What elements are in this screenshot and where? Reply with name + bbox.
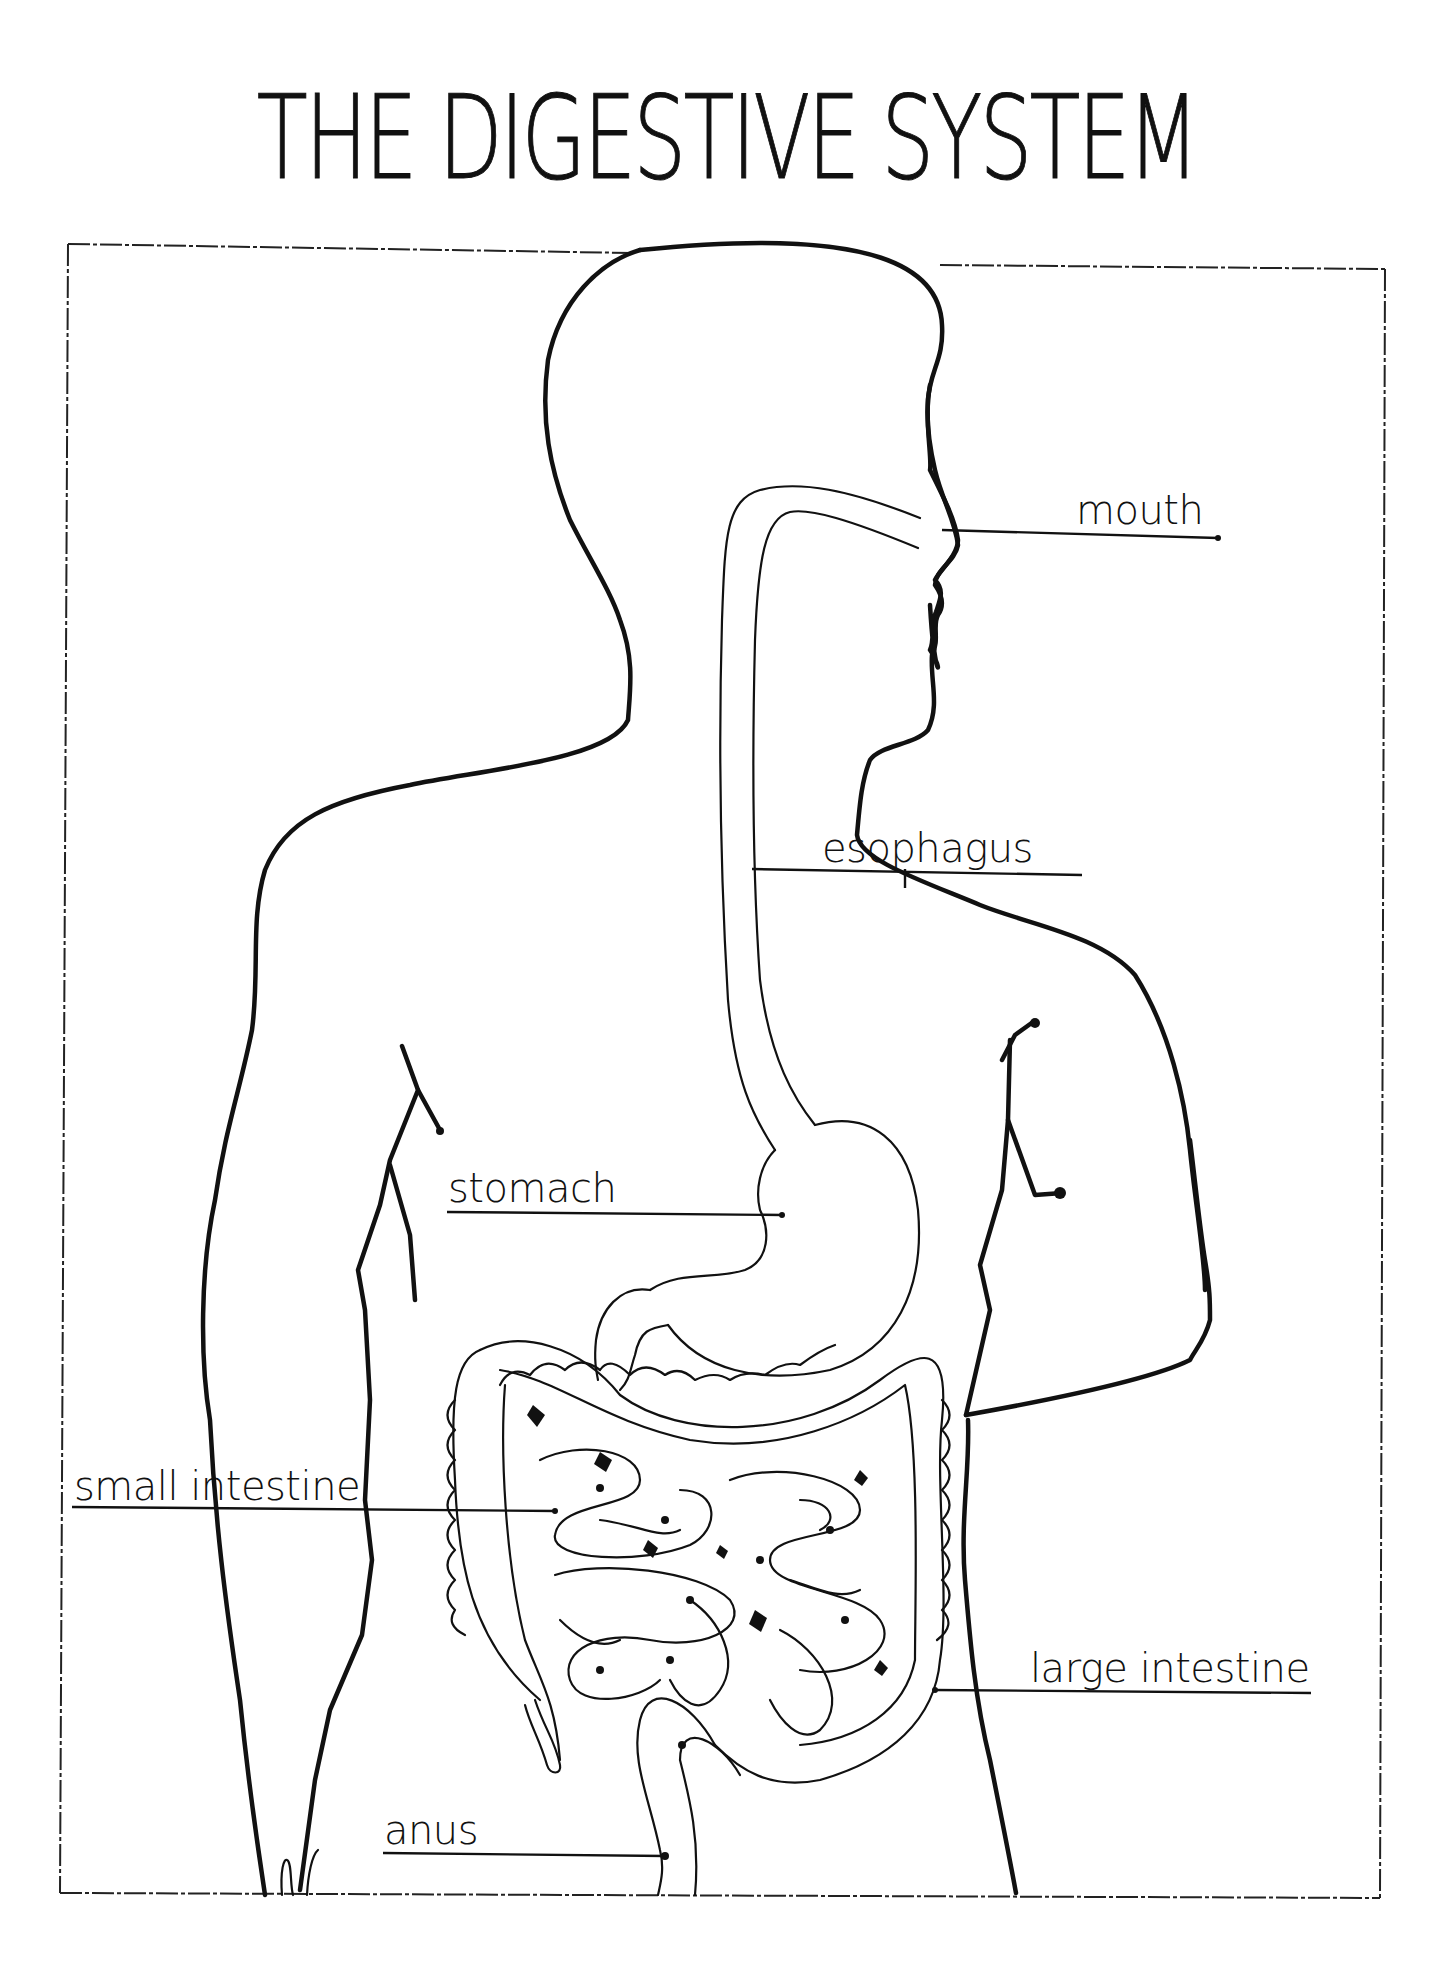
esophagus-tube (720, 486, 920, 1150)
diagram-sheet: THE DIGESTIVE SYSTEM (0, 0, 1451, 1970)
label-small-intestine: small intestine (74, 1466, 360, 1506)
label-mouth: mouth (1076, 490, 1203, 530)
stomach-organ (595, 1121, 919, 1390)
label-esophagus: esophagus (822, 828, 1033, 868)
label-stomach: stomach (448, 1168, 616, 1208)
label-large-intestine: large intestine (1030, 1648, 1310, 1688)
label-anus: anus (384, 1810, 478, 1850)
leader-anus (383, 1853, 665, 1856)
leader-stomach (447, 1212, 782, 1215)
small-intestine (527, 1405, 888, 1749)
large-intestine (448, 1341, 950, 1895)
